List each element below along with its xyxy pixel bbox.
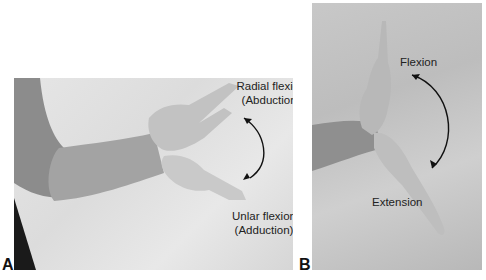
- annotation-radial-flexion: Radial flexion (Abduction): [232, 80, 293, 107]
- annotation-ulnar-flexion-line1: Unlar flexion: [224, 210, 293, 224]
- annotation-ulnar-flexion: Unlar flexion (Adduction): [224, 210, 293, 237]
- wrist-flexion-extension-illustration: [312, 3, 482, 270]
- panel-label-b: B: [299, 256, 311, 274]
- annotation-flexion: Flexion: [400, 56, 437, 70]
- annotation-extension: Extension: [372, 196, 423, 210]
- annotation-radial-flexion-line1: Radial flexion: [232, 80, 293, 94]
- photo-panel-a: Radial flexion (Abduction) Unlar flexion…: [14, 78, 293, 270]
- panel-label-a: A: [2, 256, 14, 274]
- annotation-ulnar-flexion-line2: (Adduction): [224, 224, 293, 238]
- photo-panel-b: Flexion Extension: [312, 3, 482, 270]
- annotation-radial-flexion-line2: (Abduction): [232, 94, 293, 108]
